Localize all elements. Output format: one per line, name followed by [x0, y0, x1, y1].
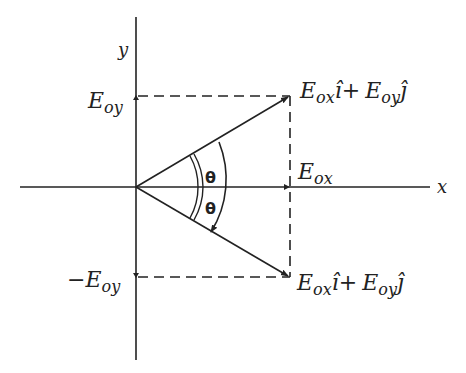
- theta-top-label: θ: [205, 168, 216, 187]
- vector-bottom-label: Eoxî+Eoyĵ: [296, 270, 405, 299]
- neg-eoy-label: −Eoy: [67, 267, 121, 296]
- eox-label: Eox: [297, 159, 333, 188]
- tick-eox: [284, 184, 290, 190]
- theta-bottom-label: θ: [205, 199, 216, 218]
- x-axis-label: x: [437, 176, 447, 197]
- vector-top-label: Eoxî+Eoyĵ: [299, 78, 408, 107]
- eoy-label: Eoy: [87, 88, 124, 117]
- y-axis-label: y: [117, 39, 129, 60]
- polarization-diagram: θ θ y x Eoy −Eoy Eox Eoxî+Eoyĵ Eoxî+Eoyĵ: [0, 0, 466, 373]
